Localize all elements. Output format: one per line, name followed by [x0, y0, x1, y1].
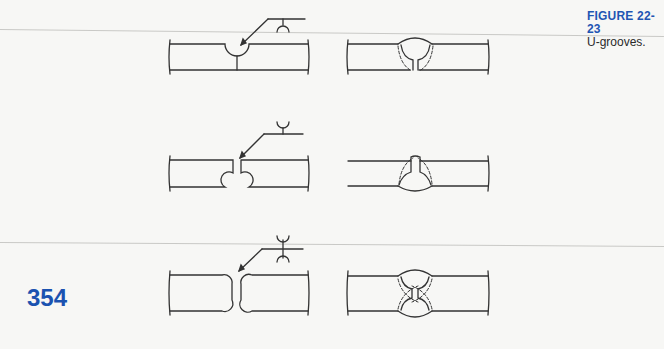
- row2-left-joint: [169, 156, 309, 191]
- row2-weld-symbol: [240, 122, 303, 158]
- figure-number: FIGURE 22-23: [587, 10, 664, 36]
- row2-right-joint: [348, 156, 489, 191]
- row3-right-joint: [347, 270, 489, 317]
- figure-caption: FIGURE 22-23 U-grooves.: [587, 10, 664, 49]
- weld-figure-drawing: [0, 0, 664, 349]
- row3-left-joint: [169, 271, 309, 315]
- row1-left-joint: [169, 40, 309, 74]
- page-number: 354: [27, 284, 67, 312]
- figure-title: U-grooves.: [587, 36, 664, 49]
- row3-weld-symbol: [239, 236, 303, 271]
- row1-weld-symbol: [241, 19, 305, 45]
- row1-right-joint: [347, 38, 489, 74]
